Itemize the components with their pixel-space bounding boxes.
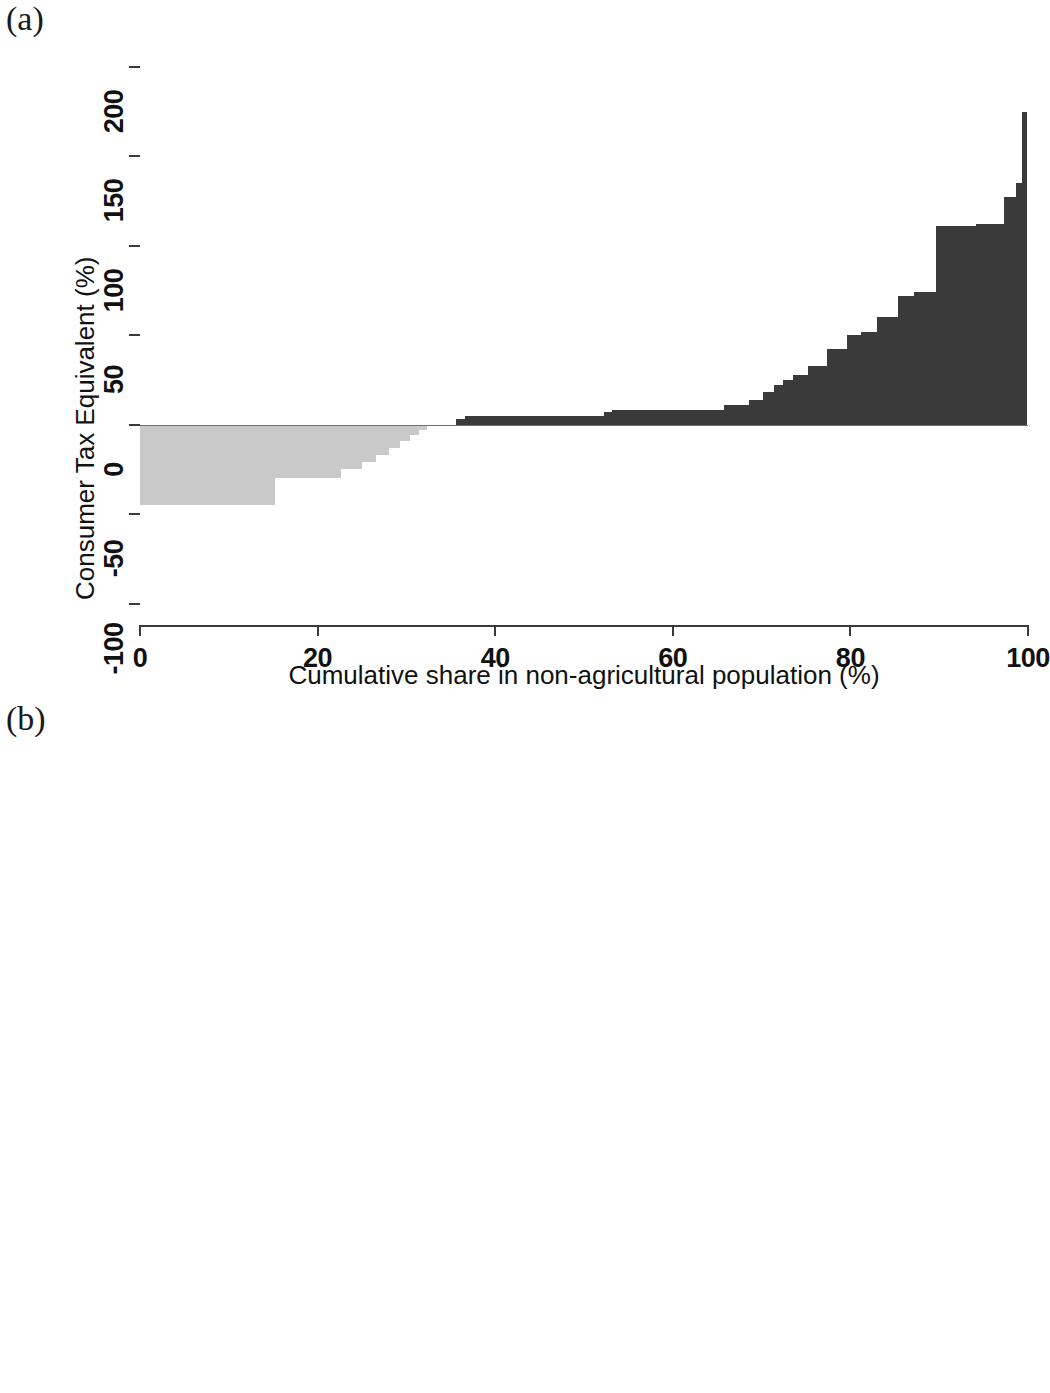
- bar: [763, 392, 774, 424]
- y-tick-label: 50: [99, 335, 130, 425]
- bar: [376, 425, 388, 455]
- x-tick: [849, 625, 851, 636]
- bar: [724, 405, 749, 425]
- y-tick: [129, 603, 140, 605]
- bar: [808, 366, 828, 425]
- bar: [861, 332, 877, 425]
- bar: [604, 412, 612, 425]
- zero-line: [140, 425, 1028, 426]
- bar: [783, 380, 793, 425]
- y-tick: [129, 424, 140, 426]
- y-tick-label: 150: [99, 156, 130, 246]
- panel-a-plot-area: [140, 40, 1028, 625]
- x-tick: [139, 625, 141, 636]
- y-tick-label: 200: [99, 66, 130, 156]
- bar: [389, 425, 401, 448]
- bar: [749, 400, 763, 425]
- bar: [847, 335, 861, 424]
- panel-a-y-axis-label: Consumer Tax Equivalent (%): [70, 257, 101, 600]
- panel-a-x-axis-label: Cumulative share in non-agricultural pop…: [20, 660, 1050, 691]
- panel-b-letter: (b): [6, 702, 46, 736]
- panel-a: (a) 200150100500-50-100020406080100 Cons…: [0, 0, 1050, 700]
- bar: [1004, 197, 1016, 424]
- bar: [275, 425, 341, 479]
- y-tick: [129, 155, 140, 157]
- x-tick: [1027, 625, 1029, 636]
- y-tick: [129, 66, 140, 68]
- y-tick-label: 100: [99, 245, 130, 335]
- bar: [914, 292, 935, 424]
- y-tick: [129, 245, 140, 247]
- bar: [827, 349, 847, 424]
- x-tick: [317, 625, 319, 636]
- bar: [774, 385, 783, 424]
- bar: [976, 224, 1004, 424]
- bar: [341, 425, 362, 470]
- bar: [410, 425, 419, 436]
- y-tick-label: -50: [99, 514, 130, 604]
- y-tick: [129, 513, 140, 515]
- bar: [898, 296, 914, 425]
- panel-a-letter: (a): [6, 2, 44, 36]
- y-tick: [129, 334, 140, 336]
- bar: [936, 226, 977, 425]
- x-tick: [494, 625, 496, 636]
- bar: [612, 410, 724, 424]
- bar: [877, 317, 898, 424]
- bar: [1022, 112, 1027, 425]
- x-tick: [672, 625, 674, 636]
- bar: [140, 425, 275, 506]
- panel-b: (b) 200150100500-50-100020406080100 Cons…: [0, 700, 1050, 1393]
- bar: [400, 425, 410, 441]
- bar: [793, 375, 808, 425]
- bar: [362, 425, 376, 463]
- panel-a-x-axis-line: [140, 625, 1028, 627]
- y-tick-label: 0: [99, 424, 130, 514]
- panel-a-plot: 200150100500-50-100020406080100: [140, 40, 1028, 625]
- bar: [465, 416, 604, 425]
